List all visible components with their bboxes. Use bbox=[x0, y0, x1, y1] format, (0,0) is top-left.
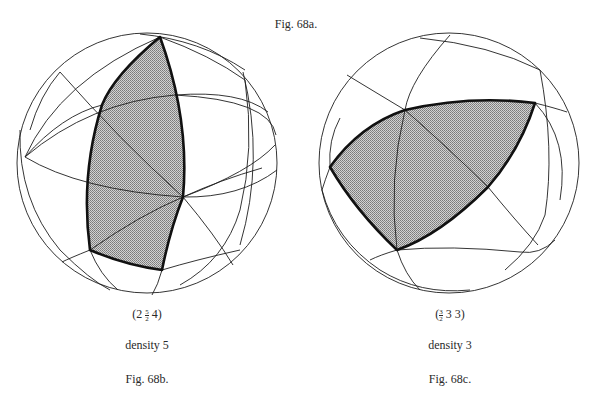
shaded-region-68c bbox=[330, 100, 535, 250]
schwarz-symbol-68c: (32 3 3) bbox=[400, 307, 500, 322]
figure-caption-68b: Fig. 68b. bbox=[97, 372, 197, 387]
figure-caption-68c: Fig. 68c. bbox=[400, 372, 500, 387]
figure-canvas bbox=[0, 0, 593, 406]
density-label-68b: density 5 bbox=[97, 338, 197, 353]
sphere-68b bbox=[17, 33, 277, 295]
density-label-68c: density 3 bbox=[400, 338, 500, 353]
sphere-68c bbox=[319, 33, 579, 293]
schwarz-symbol-68b: (2 52 4) bbox=[97, 307, 197, 322]
figure-caption-68a: Fig. 68a. bbox=[246, 17, 346, 32]
